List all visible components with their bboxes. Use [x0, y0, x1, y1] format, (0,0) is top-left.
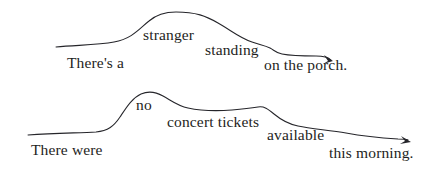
arrowhead-utterance-2 — [400, 136, 411, 144]
utterance-2-word-2: no — [136, 97, 152, 113]
utterance-2-word-5: this morning. — [329, 145, 414, 161]
utterance-1-word-3: standing — [205, 42, 259, 58]
utterance-2-word-1: There were — [31, 142, 103, 158]
utterance-1-word-2: stranger — [143, 27, 194, 43]
utterance-1-word-1: There's a — [67, 55, 124, 71]
utterance-2-word-3: concert tickets — [167, 114, 259, 130]
utterance-1-word-4: on the porch. — [264, 57, 347, 73]
utterance-2-word-4: available — [267, 127, 324, 143]
intonation-contour-figure: There's a stranger standing on the porch… — [0, 0, 433, 171]
